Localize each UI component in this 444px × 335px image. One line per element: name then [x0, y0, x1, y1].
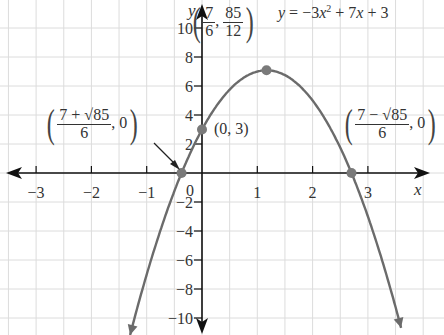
y-tick-label: 8 — [185, 49, 193, 66]
x-tick-label: 3 — [364, 184, 372, 201]
pointer-arrow-head — [170, 160, 180, 170]
right-x-intercept-label: (7 − √856, 0) — [342, 104, 438, 144]
y-tick-label: −10 — [168, 310, 193, 327]
pointer-arrow-line — [154, 143, 176, 165]
y-tick-label: −8 — [176, 281, 193, 298]
right-paren: ) — [246, 2, 254, 42]
y-tick-label: −6 — [176, 252, 193, 269]
left-paren: ( — [193, 2, 201, 42]
vertex-y-fraction: 8512 — [223, 5, 243, 40]
x-tick-label: −3 — [28, 184, 45, 201]
y-tick-label: 6 — [185, 78, 193, 95]
x-intercept-right-point — [346, 168, 356, 178]
y-intercept-label: (0, 3) — [214, 120, 249, 138]
x-intercept-left-point — [177, 168, 187, 178]
axes: xy — [6, 1, 430, 334]
x-tick-label: −1 — [138, 184, 155, 201]
left-x-intercept-label: (7 + √856, 0) — [44, 104, 140, 144]
y-intercept-point — [197, 125, 207, 135]
y-tick-label: −4 — [176, 223, 193, 240]
x-tick-label: 2 — [309, 184, 317, 201]
vertex-x-fraction: 76 — [203, 5, 215, 40]
vertex-label: (76, 8512) — [190, 2, 257, 42]
x-tick-label: −2 — [83, 184, 100, 201]
left-root-fraction: 7 + √856 — [57, 107, 111, 142]
x-tick-label: 1 — [253, 184, 261, 201]
grid-lines — [0, 0, 444, 335]
curve-left-arrow-icon — [128, 324, 138, 335]
equation-label: y = −3x2 + 7x + 3 — [278, 3, 388, 22]
parabola-chart: xy −3−2−1123−10−8−6−4−22468100 — [0, 0, 444, 335]
y-tick-label: 4 — [185, 107, 193, 124]
origin-label: 0 — [186, 182, 194, 199]
x-axis-label: x — [413, 180, 422, 199]
key-points — [177, 65, 357, 178]
vertex-point — [262, 65, 272, 75]
right-root-fraction: 7 − √856 — [355, 107, 409, 142]
